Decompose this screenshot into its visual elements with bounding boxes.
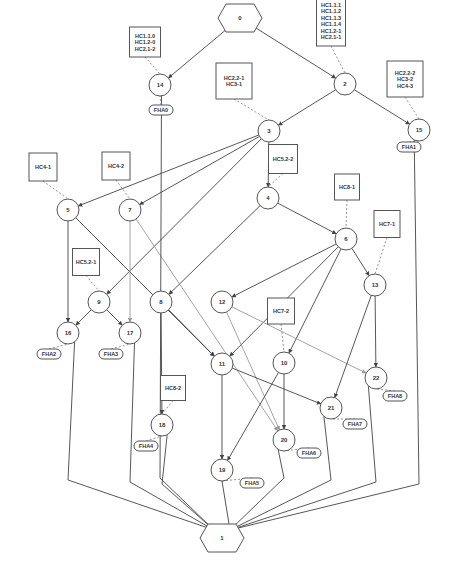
hc-label: HC8-1 (339, 184, 355, 190)
node-8: 8 (150, 291, 172, 313)
edge-17-1 (130, 343, 214, 530)
svg-text:FHA5: FHA5 (245, 480, 259, 486)
edge-6-13 (352, 248, 369, 275)
hc-label: HC4-3 (397, 83, 413, 89)
svg-text:FHA0: FHA0 (154, 107, 168, 113)
hc-7-box: HC4-2 (102, 152, 130, 180)
svg-text:15: 15 (416, 127, 423, 133)
edge-13-22 (375, 296, 376, 367)
edge-16-1 (68, 342, 214, 530)
node-2: 2 (334, 73, 356, 95)
hc-5-box: HC4-1 (29, 153, 57, 181)
node-7: 7 (119, 199, 141, 221)
node-18: 18 (151, 414, 173, 436)
terminal-0-hexagon: 0 (218, 4, 262, 32)
svg-text:14: 14 (157, 82, 164, 88)
svg-text:FHA8: FHA8 (388, 393, 402, 399)
edge-12-20 (227, 312, 280, 430)
node-20: 20 (273, 429, 295, 451)
hc-label: HC1.1.0 (135, 33, 155, 39)
edge-12-22 (232, 307, 366, 373)
svg-text:FHA1: FHA1 (402, 144, 416, 150)
svg-text:12: 12 (219, 299, 226, 305)
hc-label: HC8-2 (165, 385, 181, 391)
node-17: 17 (119, 322, 141, 344)
edge-4-8 (169, 206, 260, 295)
edge-3-7 (140, 136, 260, 204)
node-5: 5 (57, 199, 79, 221)
hc-label: HC1.1.3 (321, 15, 341, 21)
fha-3-label: FHA3 (99, 349, 123, 359)
node-6: 6 (335, 228, 357, 250)
node-19: 19 (211, 459, 233, 481)
hc-label: HC1.1.4 (321, 21, 342, 27)
hc-boxes: HC1.1.0HC1.2-0HC2.1-2HC1.1.1HC1.1.2HC1.1… (29, 0, 423, 401)
svg-text:20: 20 (281, 437, 288, 443)
edge-18-1 (162, 435, 214, 530)
fha-2-label: FHA2 (37, 349, 61, 359)
hc-label: HC3-2 (397, 76, 413, 82)
fha-6-label: FHA6 (297, 448, 321, 458)
hc-18-box: HC8-2 (161, 376, 186, 401)
hc-6-box: HC8-1 (335, 174, 360, 200)
svg-text:FHA6: FHA6 (302, 450, 316, 456)
hc-label: HC4-2 (108, 163, 124, 169)
svg-text:FHA4: FHA4 (139, 443, 154, 449)
fha-4-label: FHA4 (134, 441, 158, 451)
node-12: 12 (211, 291, 233, 313)
hc-label: HC3-1 (226, 81, 242, 87)
svg-text:10: 10 (281, 360, 288, 366)
fha-7-label: FHA7 (343, 419, 367, 429)
edge-4-6 (278, 203, 337, 234)
node-9: 9 (88, 291, 110, 313)
node-15: 15 (408, 119, 430, 141)
svg-text:17: 17 (127, 330, 134, 336)
edge-11-21 (232, 368, 321, 404)
hc-label: HC2.1-2 (135, 46, 155, 52)
flow-diagram: HC1.1.0HC1.2-0HC2.1-2HC1.1.1HC1.1.2HC1.1… (0, 0, 457, 570)
hc-label: HC1.1.1 (321, 2, 341, 8)
edge-20-1 (230, 449, 284, 530)
node-16: 16 (57, 322, 79, 344)
svg-text:21: 21 (328, 405, 335, 411)
terminal-1-hexagon: 1 (200, 524, 244, 552)
hc-label: HC5.2-1 (76, 259, 96, 265)
svg-text:22: 22 (373, 375, 380, 381)
hc-15-box: HC2.2-2HC3-2HC4-3 (387, 61, 423, 97)
svg-text:FHA3: FHA3 (104, 351, 118, 357)
svg-text:19: 19 (219, 467, 226, 473)
node-4: 4 (257, 187, 279, 209)
svg-text:16: 16 (65, 330, 72, 336)
edge-10-19 (228, 373, 279, 461)
fha-5-label: FHA5 (240, 478, 264, 488)
hc-label: HC1.2-1 (321, 28, 341, 34)
edge-8-11 (169, 310, 215, 356)
hc-label: HC7-2 (273, 308, 289, 314)
node-14: 14 (149, 74, 171, 96)
hc-label: HC1.2-0 (135, 39, 155, 45)
hc-13-box: HC7-1 (374, 211, 400, 238)
node-3: 3 (258, 120, 280, 142)
edge-2-3 (278, 90, 335, 125)
hc-label: HC4-1 (35, 164, 51, 170)
hc-label: HC2.1-1 (321, 34, 341, 40)
fha-8-label: FHA8 (383, 391, 407, 401)
node-10: 10 (273, 352, 295, 374)
node-11: 11 (211, 353, 233, 375)
node-22: 22 (365, 367, 387, 389)
edge-14-1 (160, 96, 214, 530)
edge-9-17 (107, 310, 122, 325)
hc-label: HC5.2-2 (273, 156, 293, 162)
hc-10-box: HC7-2 (268, 298, 295, 324)
hc-label: HC1.1.2 (321, 8, 341, 14)
hc-2-box: HC1.1.1HC1.1.2HC1.1.3HC1.1.4HC1.2-1HC2.1… (317, 0, 346, 46)
hc-label: HC2.2-1 (224, 75, 244, 81)
svg-text:FHA7: FHA7 (348, 421, 362, 427)
svg-text:FHA2: FHA2 (42, 351, 56, 357)
hc-label: HC7-1 (379, 221, 395, 227)
edge-7-20 (136, 219, 278, 431)
hc-9-box: HC5.2-1 (73, 249, 100, 276)
hc-3-box: HC2.2-1HC3-1 (216, 63, 252, 99)
hc-4-box: HC5.2-2 (269, 145, 298, 174)
node-21: 21 (320, 397, 342, 419)
